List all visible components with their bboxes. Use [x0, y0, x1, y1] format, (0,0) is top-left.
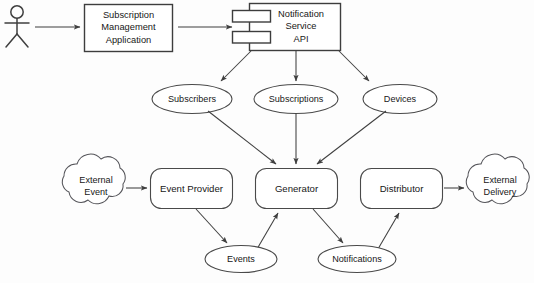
devices-label: Devices [384, 94, 417, 104]
node-external-event[interactable]: External Event [62, 154, 125, 204]
subscribers-label: Subscribers [168, 94, 216, 104]
external-delivery-label-line-1: External [483, 175, 516, 185]
node-distributor[interactable]: Distributor [361, 169, 443, 209]
user-actor[interactable] [5, 6, 29, 47]
edge-events-to-generator [257, 213, 278, 249]
generator-label: Generator [275, 183, 319, 194]
notification-service-api-label-line-2: Service [285, 21, 316, 31]
node-notification-service-api[interactable]: Notification Service API [233, 4, 341, 51]
actor-leg-right-icon [17, 34, 28, 47]
notifications-label: Notifications [332, 254, 382, 264]
node-external-delivery[interactable]: External Delivery [466, 154, 529, 204]
edge-notifications-to-distributor [378, 213, 399, 249]
notification-service-api-tab-bottom-icon [233, 32, 271, 44]
event-provider-label: Event Provider [160, 183, 224, 194]
external-event-label-line-2: Event [84, 187, 108, 197]
node-notifications[interactable]: Notifications [318, 246, 396, 273]
node-subscriptions[interactable]: Subscriptions [254, 85, 338, 114]
node-event-provider[interactable]: Event Provider [151, 169, 233, 209]
edge-event-provider-to-events [196, 209, 227, 243]
actor-head-icon [11, 6, 23, 18]
distributor-label: Distributor [380, 183, 425, 194]
actor-leg-left-icon [6, 34, 17, 47]
edge-generator-to-notifications [313, 209, 343, 243]
notification-service-api-tab-top-icon [233, 11, 271, 23]
node-subscription-management-application[interactable]: Subscription Management Application [85, 5, 173, 52]
edge-notification-service-api-to-devices [339, 51, 369, 81]
edge-devices-to-generator [317, 111, 386, 164]
events-label: Events [227, 254, 255, 264]
subscriptions-label: Subscriptions [269, 94, 324, 104]
edge-notification-service-api-to-subscribers [221, 51, 251, 81]
external-delivery-label-line-2: Delivery [484, 187, 517, 197]
architecture-diagram-svg: Subscription Management Application Noti… [0, 0, 534, 283]
node-devices[interactable]: Devices [363, 85, 437, 114]
subscription-management-application-label-line-1: Subscription [103, 10, 154, 20]
external-event-label-line-1: External [79, 175, 112, 185]
notification-service-api-label-line-1: Notification [278, 9, 324, 19]
node-generator[interactable]: Generator [256, 169, 338, 209]
edge-subscribers-to-generator [208, 111, 276, 164]
subscription-management-application-label-line-2: Management [101, 22, 156, 32]
subscription-management-application-label-line-3: Application [106, 35, 151, 45]
notification-service-api-label-line-3: API [294, 34, 309, 44]
diagram-canvas: Subscription Management Application Noti… [0, 0, 534, 283]
node-subscribers[interactable]: Subscribers [152, 85, 232, 114]
node-events[interactable]: Events [205, 246, 277, 273]
